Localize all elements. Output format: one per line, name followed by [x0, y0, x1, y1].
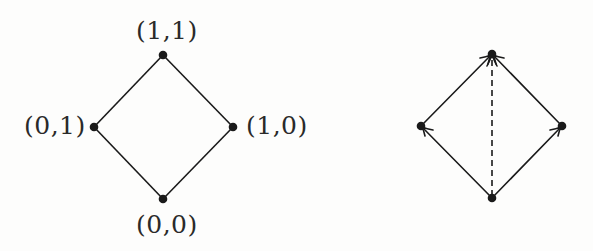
edge-bottom-right-arrow [492, 127, 561, 198]
node-dot-top [159, 51, 168, 60]
node-label-left: (0,1) [24, 113, 86, 138]
edge-left-top-arrow [421, 55, 491, 126]
edge-bottom-left [94, 127, 163, 199]
edge-right-top [163, 55, 233, 127]
node-dot-left [417, 122, 426, 131]
edge-bottom-right [163, 127, 233, 199]
node-label-top: (1,1) [136, 18, 198, 43]
node-label-right: (1,0) [246, 113, 308, 138]
edge-bottom-left-arrow [422, 127, 492, 198]
node-dot-top [488, 50, 497, 59]
lattice-nodes [90, 51, 238, 204]
figure-canvas: (1,1) (0,1) (1,0) (0,0) [0, 0, 593, 251]
node-dot-right [229, 123, 238, 132]
node-dot-right [558, 122, 567, 131]
directed-diagram [421, 55, 562, 198]
edge-left-top [94, 55, 163, 127]
node-dot-left [90, 123, 99, 132]
edge-right-top-arrow [493, 55, 562, 126]
node-dot-bottom [159, 195, 168, 204]
node-dot-bottom [488, 194, 497, 203]
lattice-diagram [94, 55, 233, 199]
node-label-bottom: (0,0) [136, 212, 198, 237]
